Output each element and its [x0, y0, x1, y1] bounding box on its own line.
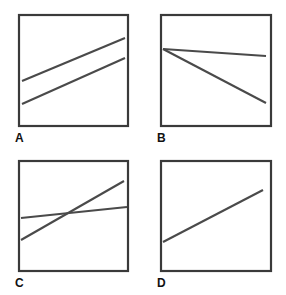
panel-c-label: C: [15, 276, 24, 290]
figure-root: A B C D: [0, 0, 286, 295]
panel-b-label: B: [157, 131, 166, 145]
panel-d: D: [157, 161, 271, 290]
panel-b-frame: [161, 15, 271, 126]
panel-a: A: [15, 15, 128, 145]
four-panel-line-figure: A B C D: [0, 0, 286, 295]
panel-c: C: [15, 161, 128, 290]
panel-d-label: D: [157, 276, 166, 290]
panel-d-frame: [161, 161, 271, 271]
panel-a-label: A: [15, 131, 24, 145]
panel-b: B: [157, 15, 271, 145]
panel-a-frame: [19, 15, 128, 126]
